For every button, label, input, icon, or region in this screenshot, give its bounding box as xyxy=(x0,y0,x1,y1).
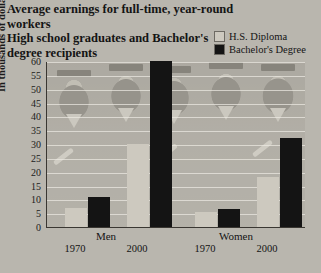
gridline xyxy=(47,131,305,132)
chart-title-line-3: degree recipients xyxy=(7,46,247,61)
y-axis-tick-label: 30 xyxy=(31,139,41,150)
y-axis-tick-label: 40 xyxy=(31,111,41,122)
gridline xyxy=(47,173,305,174)
x-axis-year-women-2000: 2000 xyxy=(246,243,288,254)
gridline xyxy=(47,62,305,63)
y-axis-tick-label: 60 xyxy=(31,56,41,67)
gridline xyxy=(47,90,305,91)
chart-legend: H.S. Diploma Bachelor's Degree xyxy=(214,31,306,57)
y-axis-tick-labels: 051015202530354045505560 xyxy=(0,62,44,228)
y-axis-tick-label: 45 xyxy=(31,98,41,109)
y-axis-tick-label: 5 xyxy=(36,208,41,219)
x-axis-group-women: Women xyxy=(206,230,266,242)
gridline xyxy=(47,159,305,160)
legend-label-hs-diploma: H.S. Diploma xyxy=(229,31,287,42)
chart-title: Average earnings for full-time, year-rou… xyxy=(7,2,247,60)
x-axis: Men Women 1970 2000 1970 2000 xyxy=(46,229,305,269)
chart-title-line-2: High school graduates and Bachelor's xyxy=(7,31,247,46)
x-axis-year-women-1970: 1970 xyxy=(184,243,226,254)
plot-area xyxy=(46,62,305,228)
y-axis-tick-label: 0 xyxy=(36,222,41,233)
legend-swatch-hs-diploma xyxy=(214,31,225,42)
y-axis-tick-label: 25 xyxy=(31,153,41,164)
legend-item-hs-diploma: H.S. Diploma xyxy=(214,31,306,42)
bar xyxy=(195,212,217,227)
gridline xyxy=(47,117,305,118)
legend-item-bachelors-degree: Bachelor's Degree xyxy=(214,44,306,55)
y-axis-tick-label: 15 xyxy=(31,181,41,192)
bar xyxy=(65,208,87,227)
bar xyxy=(280,138,302,227)
y-axis-tick-label: 55 xyxy=(31,70,41,81)
bar xyxy=(257,177,279,227)
x-axis-year-men-1970: 1970 xyxy=(54,243,96,254)
gridline xyxy=(47,104,305,105)
bar xyxy=(127,144,149,227)
x-axis-year-men-2000: 2000 xyxy=(116,243,158,254)
bar xyxy=(218,209,240,227)
y-axis-tick-label: 35 xyxy=(31,125,41,136)
legend-label-bachelors-degree: Bachelor's Degree xyxy=(229,44,306,55)
bar xyxy=(150,61,172,227)
bar xyxy=(88,197,110,227)
gridline xyxy=(47,76,305,77)
x-axis-group-men: Men xyxy=(76,230,136,242)
gridline xyxy=(47,145,305,146)
legend-swatch-bachelors-degree xyxy=(214,44,225,55)
y-axis-tick-label: 20 xyxy=(31,167,41,178)
chart-title-line-1: Average earnings for full-time, year-rou… xyxy=(7,2,247,31)
y-axis-tick-label: 50 xyxy=(31,84,41,95)
y-axis-tick-label: 10 xyxy=(31,194,41,205)
